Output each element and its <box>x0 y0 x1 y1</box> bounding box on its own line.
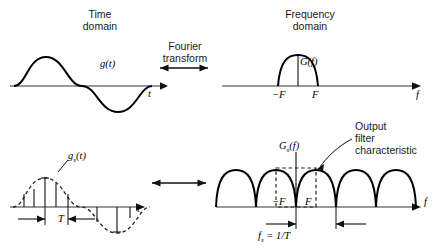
figure-root: Time domain Frequency domain Fourier tra… <box>0 0 436 252</box>
gsf-tail: (f) <box>289 140 299 151</box>
spectrum-lobe-1 <box>336 170 376 207</box>
fourier-transform-arrow <box>160 64 208 71</box>
spectrum-lobe--2 <box>216 170 256 207</box>
band-lower-label-continuous: −F <box>272 89 286 100</box>
panel-freq-continuous <box>222 54 421 90</box>
axis-label-f-continuous: f <box>416 89 419 100</box>
sine-curve-gt <box>14 57 152 112</box>
signal-label-Gsf: Gs(f) <box>279 140 299 154</box>
gst-tail: (t) <box>76 150 86 161</box>
output-filter-leader-line <box>320 139 352 167</box>
spectrum-lobe-2 <box>376 170 416 207</box>
time-domain-heading: Time domain <box>48 8 152 32</box>
signal-label-Gf: G(f) <box>300 56 318 67</box>
time-axis-arrowhead <box>160 82 168 90</box>
gst-leader-line <box>58 160 68 172</box>
sample-impulses <box>24 178 130 232</box>
signal-label-gt: g(t) <box>100 58 115 69</box>
signal-label-gst: gs(t) <box>68 150 86 164</box>
axis-label-t-sampled: t <box>137 203 140 214</box>
axis-label-t-continuous: t <box>148 88 151 99</box>
frequency-domain-heading: Frequency domain <box>253 8 367 32</box>
panel-time-continuous <box>10 57 168 112</box>
sample-tick-caps <box>41 178 121 232</box>
sampling-rate-label: fs = 1/T <box>258 230 290 244</box>
sample-interval-label: T <box>58 213 64 224</box>
band-upper-label-sampled: F <box>305 196 311 207</box>
output-filter-characteristic-label: Output filter characteristic <box>355 120 435 156</box>
fourier-transform-arrow-sampled <box>152 179 206 186</box>
band-lower-label-sampled: −F <box>272 196 286 207</box>
panel-time-sampled <box>10 160 150 233</box>
fourier-transform-label: Fourier transform <box>146 40 224 64</box>
band-upper-label-continuous: F <box>312 89 318 100</box>
fs-tail: = 1/T <box>264 230 290 241</box>
sampling-interval-dimension <box>18 207 95 225</box>
gsf-base: G <box>279 140 287 151</box>
axis-label-f-sampled: f <box>424 196 427 207</box>
